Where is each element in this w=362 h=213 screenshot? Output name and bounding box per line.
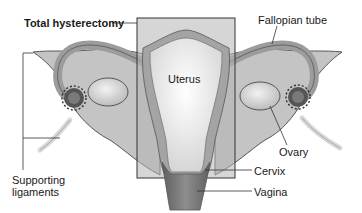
label-supporting-ligaments-line1: Supporting — [12, 174, 65, 186]
label-fallopian-tube: Fallopian tube — [258, 14, 327, 26]
label-total-hysterectomy: Total hysterectomy — [24, 17, 124, 29]
ovary-left — [88, 78, 128, 106]
label-supporting-ligaments: Supporting ligaments — [12, 174, 65, 198]
label-ovary: Ovary — [279, 146, 308, 158]
supporting-ligament-strand-right — [302, 118, 340, 148]
supporting-ligament-strand-left — [40, 120, 70, 150]
label-vagina: Vagina — [254, 186, 287, 198]
label-supporting-ligaments-line2: ligaments — [12, 186, 65, 198]
ovary-right — [240, 82, 280, 110]
hysterectomy-diagram: Total hysterectomy Fallopian tube Uterus… — [0, 0, 362, 213]
label-uterus: Uterus — [168, 73, 200, 85]
label-cervix: Cervix — [254, 165, 285, 177]
